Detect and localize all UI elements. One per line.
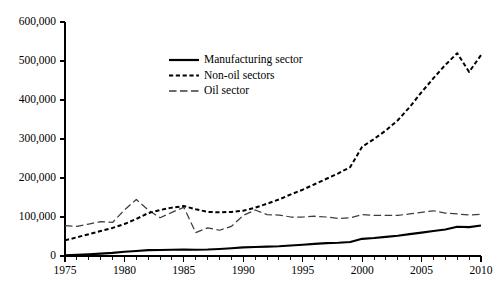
x-tick-label: 1985 (172, 264, 195, 276)
legend-label: Non-oil sectors (204, 69, 275, 81)
legend-label: Manufacturing sector (204, 53, 303, 66)
y-tick-label: 500,000 (19, 54, 57, 67)
x-tick-label: 1995 (291, 264, 314, 276)
y-tick-label: 600,000 (19, 15, 57, 28)
y-tick-label: 100,000 (19, 210, 57, 223)
chart-canvas: 0100,000200,000300,000400,000500,000600,… (0, 0, 497, 289)
x-tick-label: 1980 (113, 264, 136, 276)
y-tick-label: 400,000 (19, 93, 57, 106)
chart-background (0, 0, 497, 289)
x-tick-label: 1975 (54, 264, 77, 276)
x-tick-label: 2000 (351, 264, 374, 276)
legend-label: Oil sector (204, 84, 249, 96)
line-chart: 0100,000200,000300,000400,000500,000600,… (0, 0, 497, 289)
y-tick-label: 300,000 (19, 132, 57, 145)
x-tick-label: 1990 (232, 264, 255, 276)
y-tick-label: 0 (50, 249, 56, 261)
x-tick-label: 2010 (470, 264, 493, 276)
x-tick-label: 2005 (410, 264, 433, 276)
y-tick-label: 200,000 (19, 171, 57, 184)
